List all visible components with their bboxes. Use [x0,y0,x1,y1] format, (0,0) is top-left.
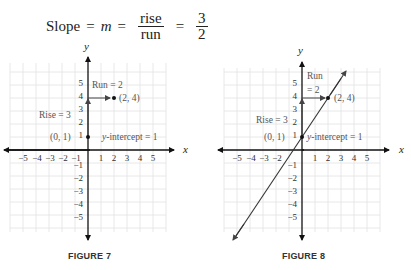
tick-label: 1 [293,130,298,140]
x-axis-label: x [182,143,188,155]
tick-label: −3 [287,186,297,196]
tick-label: 5 [151,153,156,163]
tick-label: 2 [293,117,298,127]
x-tick-labels: −5 −4 −3 −2 −1 1 2 3 4 5 [18,153,156,163]
tick-label: −5 [73,212,83,222]
run-label-line1: Run [307,71,323,81]
y-intercept-label: y-intercept = 1 [101,132,158,142]
tick-label: 2 [79,117,84,127]
x-axis-label: x [398,143,404,155]
figure-7: x y −5 −4 −3 −2 −1 1 2 3 4 5 5 4 3 2 1 −… [4,40,188,240]
tick-label: −3 [45,153,55,163]
figure-7-caption: FIGURE 7 [68,251,111,261]
rise-label: Rise = 3 [39,110,71,120]
tick-label: 3 [339,153,344,163]
tick-label: −1 [287,160,297,170]
y-axis-label: y [297,44,303,56]
tick-label: 2 [326,153,331,163]
tick-label: 1 [313,153,318,163]
tick-label: 1 [99,153,104,163]
point-two-four [326,96,330,100]
tick-label: −4 [73,199,83,209]
intercept-label-rest: -intercept = 1 [311,132,363,142]
tick-label: 3 [293,104,298,114]
tick-label: −5 [232,153,242,163]
tick-label: 5 [293,78,298,88]
tick-label: 4 [79,91,84,101]
point-label-two-four: (2, 4) [334,93,355,104]
figure-8: x y −5 −4 −3 −2 1 2 3 4 5 5 4 3 2 1 −1 −… [218,44,404,240]
tick-label: −2 [73,173,83,183]
tick-label: 4 [293,91,298,101]
tick-label: −3 [73,186,83,196]
tick-label: −5 [287,212,297,222]
rise-label: Rise = 3 [256,115,288,125]
tick-label: 3 [125,153,130,163]
tick-label: 5 [365,153,370,163]
x-tick-labels: −5 −4 −3 −2 1 2 3 4 5 [232,153,370,163]
point-label-intercept: (0, 1) [264,132,285,143]
point-two-four [112,96,116,100]
run-label: Run = 2 [92,80,123,90]
tick-label: 5 [79,78,84,88]
tick-label: −3 [259,153,269,163]
tick-label: −1 [73,160,83,170]
run-label-line2: = 2 [307,85,320,95]
tick-label: 3 [79,104,84,114]
tick-label: −4 [32,153,42,163]
tick-label: 1 [79,130,84,140]
tick-label: −5 [18,153,28,163]
tick-label: −2 [287,173,297,183]
tick-label: 4 [352,153,357,163]
point-intercept [86,135,90,139]
y-intercept-label: y-intercept = 1 [306,132,363,142]
tick-label: −2 [58,153,68,163]
tick-label: −4 [287,199,297,209]
figure-8-caption: FIGURE 8 [282,251,325,261]
tick-label: −2 [272,153,282,163]
tick-label: 2 [112,153,117,163]
y-axis-label: y [83,40,89,52]
tick-label: 4 [138,153,143,163]
point-label-two-four: (2, 4) [119,93,140,104]
tick-label: −4 [246,153,256,163]
point-intercept [300,135,304,139]
intercept-label-rest: -intercept = 1 [106,132,158,142]
point-label-intercept: (0, 1) [50,132,71,143]
